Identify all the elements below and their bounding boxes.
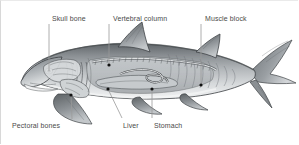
- pelvic-fin: [132, 97, 162, 114]
- dot-muscle-block: [199, 83, 202, 86]
- label-liver: Liver: [123, 121, 139, 130]
- pectoral-fin: [54, 94, 93, 124]
- dot-vertebral-column: [107, 63, 110, 66]
- label-stomach: Stomach: [154, 121, 182, 130]
- label-skull-bone: Skull bone: [52, 14, 86, 23]
- caudal-fin: [250, 40, 296, 108]
- label-muscle-block: Muscle block: [205, 14, 247, 23]
- dot-stomach: [150, 87, 153, 90]
- label-pectoral-bones: Pectoral bones: [12, 121, 60, 130]
- label-vertebral-column: Vertebral column: [113, 14, 167, 23]
- shark-anatomy-figure: Skull bone Vertebral column Muscle block…: [0, 0, 299, 145]
- dot-pectoral-bones: [69, 93, 72, 96]
- dot-liver: [106, 87, 109, 90]
